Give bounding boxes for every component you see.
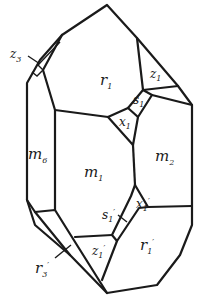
s1p-boundary [112, 185, 148, 241]
label-m1: m1 [84, 163, 103, 183]
r3p-edge-b [35, 212, 70, 255]
z3-edge-b [38, 42, 60, 65]
label-r1: r1 [100, 71, 112, 91]
m1-right-edge [133, 145, 135, 185]
label-s1-prime: s1′ [102, 207, 115, 224]
label-z1-prime: z1′ [91, 243, 105, 260]
label-z3: z3 [9, 47, 21, 64]
label-x1: x1 [119, 115, 131, 131]
r1-boundary [55, 38, 143, 117]
crystal-diagram: r1 z1 z3 s1 x1 m1 m2 m6 s1′ x1′ z1′ r1′ … [0, 0, 202, 303]
label-r3-prime: r3′ [35, 259, 49, 279]
label-s1: s1 [133, 93, 144, 109]
z1p-boundary [75, 235, 112, 237]
z1-boundary [143, 86, 178, 90]
z3-leader [28, 56, 40, 64]
face-labels: r1 z1 z3 s1 x1 m1 m2 m6 s1′ x1′ z1′ r1′ … [9, 47, 174, 279]
label-m2: m2 [155, 147, 174, 167]
label-z1: z1 [149, 67, 161, 83]
label-r1-prime: r1′ [140, 236, 154, 256]
label-m6: m6 [28, 145, 47, 165]
